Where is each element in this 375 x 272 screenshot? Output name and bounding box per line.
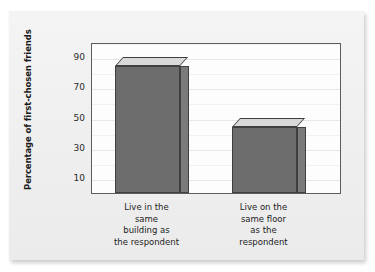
bar-front-face [232, 127, 297, 193]
figure-screenshot: Percentage of first-chosen friends 10305… [0, 0, 375, 272]
figure-card: Percentage of first-chosen friends 10305… [9, 11, 364, 260]
y-axis-tick-label: 30 [45, 143, 85, 153]
y-axis-tick-label: 10 [45, 173, 85, 183]
x-axis-label-line: same floor [212, 214, 316, 226]
x-axis-label-line: respondent [212, 237, 316, 249]
gridline-minor [92, 44, 340, 45]
y-axis-tick-label: 70 [45, 82, 85, 92]
x-axis-label-line: as the [212, 225, 316, 237]
y-axis-title: Percentage of first-chosen friends [23, 30, 33, 190]
bar-top-face [115, 57, 188, 66]
bar [232, 118, 306, 193]
y-axis-tick-label: 90 [45, 52, 85, 62]
bar-side-face [297, 127, 306, 193]
bar-top-face [232, 118, 305, 127]
bar-front-face [115, 66, 180, 193]
x-axis-label-line: same [95, 214, 199, 226]
x-axis-label-line: Live on the [212, 202, 316, 214]
y-axis-tick-label: 50 [45, 113, 85, 123]
x-axis-category-label: Live in thesamebuilding asthe respondent [95, 202, 199, 248]
x-axis-label-line: Live in the [95, 202, 199, 214]
x-axis-label-line: the respondent [95, 237, 199, 249]
bar [115, 57, 189, 193]
x-axis-label-line: building as [95, 225, 199, 237]
bar-side-face [180, 66, 189, 193]
plot-area [91, 43, 341, 194]
x-axis-category-label: Live on thesame flooras therespondent [212, 202, 316, 248]
